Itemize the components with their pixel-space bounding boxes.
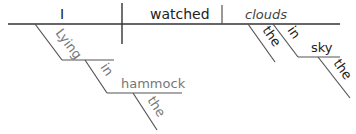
subject-word: I — [60, 6, 64, 22]
participle-slant — [35, 24, 62, 60]
participial-phrase: Lying in hammock the — [35, 24, 186, 130]
sentence-diagram: I watched clouds Lying in hammock the th… — [0, 0, 356, 134]
participle-word: Lying — [53, 26, 85, 62]
object-preposition-word: in — [285, 23, 304, 41]
prep-object-word: hammock — [121, 76, 186, 91]
preposition-word: in — [98, 60, 117, 78]
object-word: clouds — [245, 7, 287, 22]
verb-word: watched — [150, 6, 210, 22]
object-modifiers: the in sky the — [248, 23, 355, 98]
sky-word: sky — [311, 40, 333, 55]
